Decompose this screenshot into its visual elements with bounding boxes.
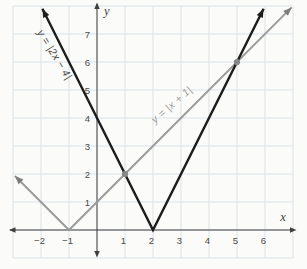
x-tick-label: 6 bbox=[261, 235, 266, 246]
y-tick-label: 1 bbox=[85, 197, 90, 208]
intersection-point bbox=[234, 59, 240, 65]
x-tick-label: 4 bbox=[205, 235, 210, 246]
x-tick-label: 3 bbox=[177, 235, 182, 246]
y-tick-label: 4 bbox=[85, 113, 90, 124]
x-axis-label: x bbox=[279, 210, 286, 224]
y-axis-label: y bbox=[102, 4, 110, 18]
intersection-point bbox=[122, 171, 128, 177]
x-tick-label: −1 bbox=[62, 235, 73, 246]
x-tick-label: 5 bbox=[233, 235, 238, 246]
y-tick-label: 3 bbox=[85, 141, 90, 152]
x-tick-label: −2 bbox=[34, 235, 45, 246]
function-graph-canvas: yx−2−11234561234567y = |x + 1|y = |2x − … bbox=[0, 0, 307, 269]
y-tick-label: 2 bbox=[85, 169, 90, 180]
x-tick-label: 2 bbox=[149, 235, 154, 246]
graph-figure: yx−2−11234561234567y = |x + 1|y = |2x − … bbox=[0, 0, 307, 269]
x-tick-label: 1 bbox=[121, 235, 126, 246]
y-tick-label: 6 bbox=[85, 57, 90, 68]
y-tick-label: 7 bbox=[85, 29, 90, 40]
